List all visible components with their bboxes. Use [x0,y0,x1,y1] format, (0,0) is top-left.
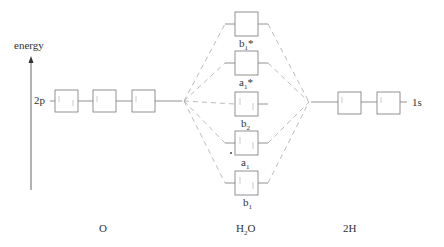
mo-diagram [0,0,444,247]
h-orbital-label: 1s [412,97,422,108]
o-2p-orbitals [50,90,182,112]
hydrogen-label: 2H [343,223,356,234]
mo-label-b1: b1 [243,197,252,211]
oxygen-label: O [99,223,107,234]
energy-arrow-icon [29,56,34,63]
o-orbital-label: 2p [34,95,45,106]
h-1s-orbitals [311,92,407,114]
mo-label-b1-star: b1* [239,38,254,52]
mo-label-b2: b2 [241,118,250,132]
mo-label-a1: a1 [241,157,249,171]
energy-axis-label: energy [14,40,44,51]
mo-electrons [240,98,253,189]
water-label: H2O [236,223,255,237]
mo-label-a1-star: a1* [239,77,253,91]
